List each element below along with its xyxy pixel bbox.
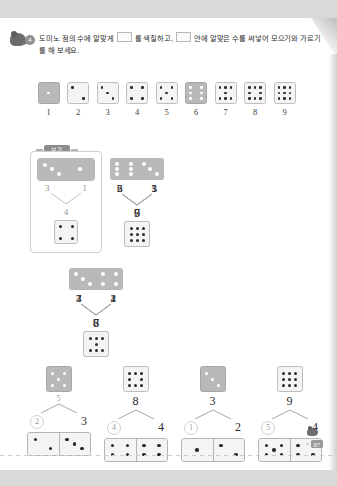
die-pip <box>289 92 292 95</box>
die-pip <box>71 86 74 89</box>
domino-pip <box>101 272 105 276</box>
domino-pip <box>148 167 152 171</box>
merge-group-3-4: 347 <box>62 268 130 357</box>
domino-half-left <box>70 269 96 289</box>
example-domino-wrap <box>35 158 97 181</box>
domino-pip <box>43 163 47 167</box>
die-pip <box>294 378 297 381</box>
merge-right-number: 3 <box>152 182 158 194</box>
die-pip <box>248 86 251 89</box>
color-blank-box-icon <box>117 32 132 42</box>
die-face-1 <box>38 82 60 104</box>
split-groups-row: 523844312954 <box>26 366 322 462</box>
problem-number-badge: 4 <box>25 35 35 45</box>
split-total-die-wrap <box>257 366 322 392</box>
die-pip <box>217 384 220 387</box>
die-pip <box>254 86 257 89</box>
page-edge-shadow <box>328 54 337 470</box>
die-pip <box>278 97 281 100</box>
domino-pip <box>115 167 119 171</box>
domino-half-left <box>111 159 137 179</box>
dice-reference-cell-8: 8 <box>243 82 268 117</box>
domino-half-right <box>136 439 167 461</box>
example-addends: 31 <box>35 183 97 193</box>
domino-pip <box>129 167 133 171</box>
instruction-text-part4: 해 보세요. <box>48 46 79 55</box>
domino-pip <box>115 172 119 176</box>
split-left-number: 4 <box>107 421 121 435</box>
die-pip <box>254 97 257 100</box>
domino-pip <box>80 447 83 450</box>
die-pip <box>130 227 133 230</box>
die-pip <box>282 378 285 381</box>
merge-right-number: 4 <box>111 292 117 304</box>
die-pip <box>200 92 203 95</box>
die-pip <box>63 372 66 375</box>
example-fork-connector <box>35 193 97 206</box>
die-face-5 <box>156 82 178 104</box>
merge-domino-wrap <box>103 158 171 180</box>
die-pip <box>140 372 143 375</box>
die-pip <box>130 239 133 242</box>
split-fork-connector <box>26 403 91 414</box>
example-content: 314 <box>31 152 101 244</box>
die-pip <box>289 86 292 89</box>
die-pip <box>282 372 285 375</box>
die-pip <box>200 86 203 89</box>
split-result-domino-wrap <box>26 432 91 456</box>
split-total-die-wrap <box>26 366 91 392</box>
dice-reference-label: 2 <box>76 107 80 117</box>
domino-pip <box>114 282 118 286</box>
merge-fork-connector <box>62 304 130 317</box>
split-total-number: 9 <box>257 394 322 409</box>
die-pip <box>134 384 137 387</box>
die-face-7 <box>83 331 109 357</box>
dice-reference-label: 4 <box>135 107 139 117</box>
dice-reference-label: 1 <box>46 107 50 117</box>
example-right-number: 1 <box>83 183 88 193</box>
domino-pip <box>49 447 52 450</box>
split-left-number: 1 <box>184 421 198 435</box>
die-pip <box>59 225 62 228</box>
dice-reference-label: 5 <box>164 107 168 117</box>
die-pip <box>289 97 292 100</box>
domino-pip <box>157 444 160 447</box>
die-pip <box>89 337 92 340</box>
domino-pip <box>74 272 78 276</box>
dice-reference-cell-9: 9 <box>272 82 297 117</box>
die-pip <box>259 86 262 89</box>
domino-pip <box>115 162 119 166</box>
die-pip <box>200 97 203 100</box>
die-pip <box>95 343 98 346</box>
domino-half-right <box>213 439 244 461</box>
split-fork-connector <box>257 409 322 420</box>
merge-result-die-wrap <box>103 221 171 247</box>
domino-1-2 <box>181 438 245 462</box>
die-pip <box>288 378 291 381</box>
dice-reference-cell-4: 4 <box>125 82 150 117</box>
write-blank-box-icon <box>176 32 191 42</box>
domino-pip <box>296 444 299 447</box>
merge-result-die-wrap <box>62 331 130 357</box>
die-pip <box>130 97 133 100</box>
example-left-number: 3 <box>45 183 50 193</box>
die-pip <box>205 372 208 375</box>
merge-sum-number: 9 <box>103 207 171 219</box>
die-pip <box>282 384 285 387</box>
split-right-number: 2 <box>235 420 241 435</box>
merge-group-6-3: 639 <box>103 158 171 247</box>
die-pip <box>112 97 115 100</box>
domino-half-right <box>59 433 90 455</box>
die-pip <box>283 92 286 95</box>
die-pip <box>130 233 133 236</box>
dice-reference-strip: 123456789 <box>36 82 297 117</box>
die-pip <box>230 97 233 100</box>
die-face-4 <box>126 82 148 104</box>
die-pip <box>160 97 163 100</box>
die-face-7 <box>215 82 237 104</box>
fork-connector-icon <box>79 304 113 316</box>
split-parts: 23 <box>26 414 91 429</box>
die-pip <box>136 239 139 242</box>
split-fork-connector <box>180 409 245 420</box>
fork-connector-icon <box>120 194 154 206</box>
